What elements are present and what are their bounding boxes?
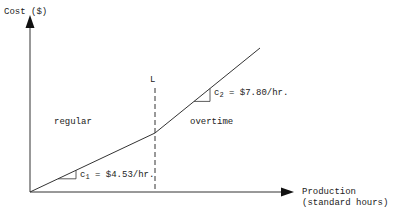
x-axis-label-line1: Production (302, 187, 356, 197)
x-axis-label-line2: (standard hours) (302, 198, 388, 208)
breakpoint-label: L (150, 75, 155, 85)
slope-label-c1: c1 = $4.53/hr. (80, 170, 154, 182)
y-axis-label: Cost ($) (4, 7, 47, 17)
c2-value: = $7.80/hr. (224, 88, 289, 98)
cost-production-diagram: Cost ($) L regular overtime c1 = $4.53/h… (0, 0, 394, 210)
c1-value: = $4.53/hr. (90, 170, 155, 180)
diagram-lines (0, 0, 394, 210)
slope-label-c2: c2 = $7.80/hr. (214, 88, 288, 100)
regular-cost-line (30, 133, 155, 192)
region-label-regular: regular (54, 117, 92, 127)
region-label-overtime: overtime (190, 117, 233, 127)
x-axis-arrow-icon (281, 188, 294, 197)
